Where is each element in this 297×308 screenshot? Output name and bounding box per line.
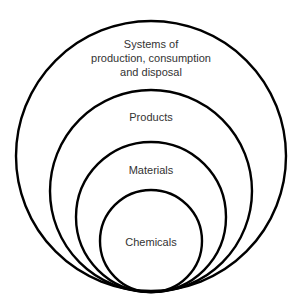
label-systems-line-3: and disposal bbox=[120, 66, 182, 78]
nested-circles-diagram: Systems of production, consumption and d… bbox=[0, 0, 297, 308]
label-materials: Materials bbox=[129, 164, 174, 176]
label-systems-line-2: production, consumption bbox=[91, 52, 211, 64]
label-products: Products bbox=[129, 111, 173, 123]
label-chemicals: Chemicals bbox=[125, 236, 177, 248]
label-systems-line-1: Systems of bbox=[124, 38, 179, 50]
